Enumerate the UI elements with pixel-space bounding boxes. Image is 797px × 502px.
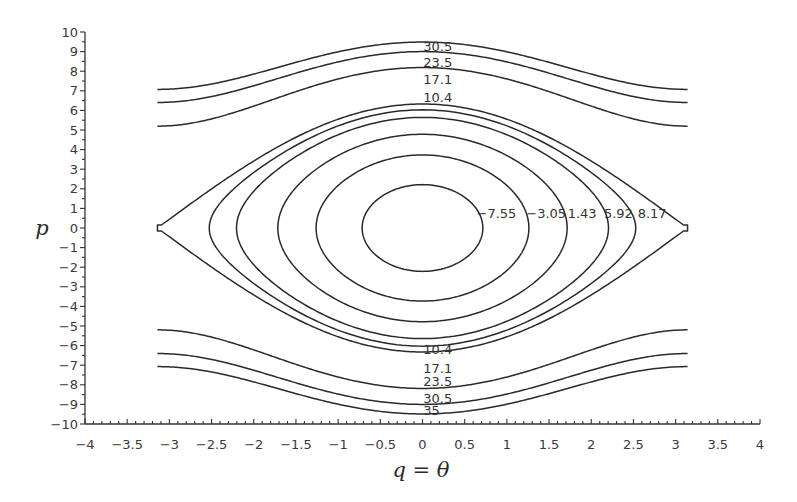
y-tick-label: −5 (59, 319, 78, 334)
contour-label: 17.1 (423, 72, 452, 87)
contour-label: 5.92 (604, 206, 633, 221)
y-tick-label: 3 (70, 162, 78, 177)
contour-label: 35 (423, 403, 440, 418)
x-axis-title: q = θ (392, 458, 449, 482)
x-tick-label: 1 (503, 437, 511, 452)
y-tick-label: −4 (59, 299, 78, 314)
y-tick-label: −8 (59, 377, 78, 392)
y-tick-label: 6 (70, 103, 78, 118)
contour-label: 23.5 (423, 55, 452, 70)
y-tick-label: 9 (70, 44, 78, 59)
y-tick-label: 5 (70, 123, 78, 138)
contour-label: −7.55 (477, 206, 517, 221)
contour-label: 10.4 (423, 90, 452, 105)
y-tick-label: 8 (70, 64, 78, 79)
x-tick-label: −1.5 (280, 437, 312, 452)
contour-curve-closed (362, 185, 483, 272)
contour-label: 8.17 (638, 206, 667, 221)
x-tick-label: −3 (160, 437, 179, 452)
x-tick-label: −0.5 (365, 437, 397, 452)
x-tick-label: −1 (329, 437, 348, 452)
contour-label: 1.43 (568, 206, 597, 221)
contour-label: 23.5 (423, 374, 452, 389)
contour-label: 30.5 (423, 39, 452, 54)
y-tick-label: −2 (59, 260, 78, 275)
x-tick-label: 1.5 (539, 437, 560, 452)
y-tick-label: −3 (59, 279, 78, 294)
phase-portrait-chart: 30.523.517.110.410.417.123.530.535−7.55−… (0, 0, 797, 502)
x-tick-label: −3.5 (111, 437, 143, 452)
contour-curve-closed (237, 117, 609, 338)
x-tick-label: 3.5 (707, 437, 728, 452)
y-tick-label: 1 (70, 201, 78, 216)
x-tick-label: 2.5 (623, 437, 644, 452)
y-axis-ticks: 109876543210−1−2−3−4−5−6−7−8−9−10 (51, 25, 85, 432)
x-tick-label: 0.5 (454, 437, 475, 452)
x-tick-label: −2 (244, 437, 263, 452)
y-tick-label: 4 (70, 142, 78, 157)
x-tick-label: 4 (756, 437, 764, 452)
y-tick-label: 2 (70, 181, 78, 196)
y-tick-label: −10 (51, 417, 78, 432)
x-tick-label: 2 (587, 437, 595, 452)
y-tick-label: 10 (61, 25, 78, 40)
y-tick-label: −6 (59, 338, 78, 353)
x-tick-label: 0 (418, 437, 426, 452)
contour-curve-closed (209, 110, 635, 346)
y-tick-label: −1 (59, 240, 78, 255)
x-tick-label: −2.5 (196, 437, 228, 452)
contour-curve-closed (278, 134, 567, 321)
x-tick-label: −4 (75, 437, 94, 452)
contour-label: 10.4 (423, 342, 452, 357)
x-tick-label: 3 (671, 437, 679, 452)
y-tick-label: 7 (70, 83, 78, 98)
y-tick-label: −7 (59, 358, 78, 373)
contour-label: −3.05 (526, 206, 566, 221)
y-tick-label: 0 (70, 221, 78, 236)
y-axis-title: p (35, 216, 48, 240)
contour-curve-closed (316, 155, 529, 301)
y-tick-label: −9 (59, 397, 78, 412)
